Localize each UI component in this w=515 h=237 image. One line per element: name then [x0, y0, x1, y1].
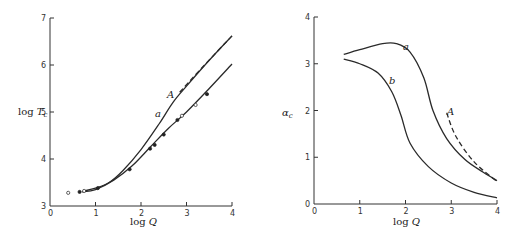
right-curve-label-A: A: [446, 106, 454, 117]
right-y-axis-label: αc: [282, 107, 293, 120]
x-tick-label: 0: [312, 207, 317, 216]
right-series: [344, 43, 497, 198]
y-tick-label: 2: [305, 107, 310, 116]
series-b-line: [344, 59, 497, 198]
left-curve-label-a: a: [155, 108, 161, 119]
data-point-marker: [176, 118, 179, 121]
figure: 0123434567 log Tc log Q a A 0123401234 α…: [0, 0, 515, 237]
y-tick-label: 4: [41, 155, 46, 164]
data-point-marker: [96, 187, 99, 190]
right-curve-label-a: a: [403, 41, 409, 52]
data-point-marker: [83, 189, 86, 192]
y-tick-label: 0: [305, 200, 310, 209]
x-tick-label: 0: [48, 209, 53, 218]
y-tick-label: 3: [41, 202, 46, 211]
data-point-marker: [149, 147, 152, 150]
right-x-axis-label: log Q: [393, 216, 420, 227]
data-point-marker: [78, 190, 81, 193]
left-chart-log-tc-vs-log-q: 0123434567 log Tc log Q a A: [18, 14, 235, 227]
data-point-marker: [194, 103, 197, 106]
y-tick-label: 7: [41, 14, 46, 23]
left-x-axis-label: log Q: [130, 216, 157, 227]
data-point-marker: [128, 168, 131, 171]
x-tick-label: 2: [404, 207, 409, 216]
x-tick-label: 1: [94, 209, 99, 218]
right-curve-label-b: b: [389, 75, 395, 86]
y-tick-label: 4: [305, 13, 310, 22]
x-tick-label: 3: [185, 209, 190, 218]
right-chart-alpha-c-vs-log-q: 0123401234 αc log Q a b A: [282, 13, 500, 227]
left-ticks: 0123434567: [41, 14, 235, 218]
data-point-marker: [153, 143, 156, 146]
data-point-marker: [180, 114, 183, 117]
x-tick-label: 4: [495, 207, 500, 216]
series-a-line: [344, 43, 497, 181]
left-data-markers: [67, 93, 209, 195]
left-axes: [50, 18, 232, 206]
left-curve-label-A: A: [166, 89, 174, 100]
y-tick-label: 1: [305, 153, 310, 162]
data-point-marker: [205, 93, 208, 96]
x-tick-label: 3: [449, 207, 454, 216]
y-tick-label: 6: [41, 61, 46, 70]
data-point-marker: [67, 191, 70, 194]
x-tick-label: 1: [358, 207, 363, 216]
data-point-marker: [162, 133, 165, 136]
series-A-line: [447, 113, 497, 182]
left-y-axis-label: log Tc: [18, 106, 47, 119]
x-tick-label: 4: [230, 209, 235, 218]
y-tick-label: 3: [305, 60, 310, 69]
